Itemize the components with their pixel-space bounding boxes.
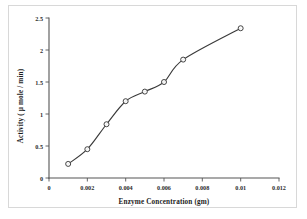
y-tick-label: 2.5 <box>35 15 43 22</box>
data-point-marker <box>238 26 243 31</box>
x-tick-label: 0.01 <box>235 184 246 191</box>
x-tick-label: 0.004 <box>119 184 133 191</box>
y-tick-label: 0.5 <box>35 143 43 150</box>
x-tick-label: 0.008 <box>195 184 209 191</box>
x-tick-label: 0.002 <box>80 184 94 191</box>
data-point-marker <box>66 161 71 166</box>
chart-figure: Activity ( µ mole / min) 2.5 2 1.5 1 0.5… <box>0 0 307 219</box>
plot-frame: Activity ( µ mole / min) 2.5 2 1.5 1 0.5… <box>8 5 297 208</box>
y-axis-title: Activity ( µ mole / min) <box>17 68 25 143</box>
data-point-marker <box>104 122 109 127</box>
line-chart: Activity ( µ mole / min) 2.5 2 1.5 1 0.5… <box>9 6 296 207</box>
y-tick-label: 0 <box>40 175 43 182</box>
x-axis-title: Enzyme Concentration (gm) <box>119 198 210 206</box>
data-point-marker <box>162 80 167 85</box>
series-line-activity <box>68 28 241 164</box>
series-markers <box>66 26 244 167</box>
data-point-marker <box>181 57 186 62</box>
bottom-caption <box>0 208 307 219</box>
x-tick-label: 0.006 <box>157 184 171 191</box>
data-point-marker <box>123 99 128 104</box>
y-tick-labels: 2.5 2 1.5 1 0.5 0 <box>35 15 43 182</box>
data-point-marker <box>85 147 90 152</box>
data-point-marker <box>142 89 147 94</box>
x-tick-label: 0.012 <box>272 184 286 191</box>
x-tick-labels: 0 0.002 0.004 0.006 0.008 0.01 0.012 <box>47 184 286 191</box>
y-tick-label: 1.5 <box>35 79 43 86</box>
y-tick-label: 2 <box>40 47 43 54</box>
y-tick-label: 1 <box>40 111 43 118</box>
x-tick-label: 0 <box>47 184 50 191</box>
